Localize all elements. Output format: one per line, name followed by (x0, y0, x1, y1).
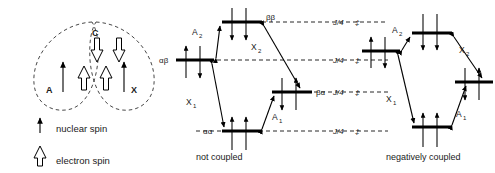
energy-label-ab: J/4 ‡ (332, 56, 360, 65)
svg-text:J/4: J/4 (332, 127, 344, 136)
svg-text:A: A (272, 112, 278, 122)
svg-text:2: 2 (199, 33, 203, 39)
legend: nuclear spin electron spin (34, 118, 110, 166)
transition-label-A2-neg: A 2 (392, 25, 403, 37)
svg-text:1: 1 (463, 115, 467, 121)
transition-label-A1-neg: A 1 (456, 109, 467, 121)
state-label-ab: αβ (159, 56, 169, 65)
diagram-canvas: A C X nuclear spin electron spin (0, 0, 495, 173)
transition-label-X2-neg: X 2 (459, 45, 470, 57)
state-label-ba: βα (316, 88, 326, 97)
svg-text:X: X (386, 94, 392, 104)
transition-arrow-A2 (216, 26, 220, 58)
svg-text:A: A (392, 25, 398, 35)
molecular-spin-schematic: A C X (34, 22, 154, 110)
electron-spin-A-arrow (78, 66, 90, 90)
svg-text:‡: ‡ (355, 18, 360, 27)
energy-label-aa: J/4 ‡ (332, 127, 360, 136)
svg-text:2: 2 (399, 31, 403, 37)
legend-label-nuclear: nuclear spin (56, 123, 107, 134)
svg-text:1: 1 (393, 100, 397, 106)
svg-text:‡: ‡ (355, 56, 360, 65)
panel-negatively-coupled: A 2 X 2 X 1 A 1 negatively coupled (362, 14, 493, 162)
energy-label-ba: J/4 ‡ (332, 88, 360, 97)
transition-label-X2: X 2 (251, 42, 262, 54)
caption-not-coupled: not coupled (196, 152, 243, 162)
svg-text:X: X (251, 42, 257, 52)
svg-text:1: 1 (279, 118, 283, 124)
atom-label-C: C (92, 28, 99, 38)
state-label-aa: αα (203, 127, 213, 136)
svg-text:2: 2 (466, 51, 470, 57)
energy-label-bb: J/4 ‡ (332, 18, 360, 27)
svg-text:‡: ‡ (355, 127, 360, 136)
caption-negatively-coupled: negatively coupled (386, 152, 461, 162)
svg-text:A: A (192, 27, 198, 37)
electron-spin-C-right-arrow (113, 38, 125, 62)
svg-text:‡: ‡ (355, 88, 360, 97)
electron-spin-icon (34, 146, 46, 166)
state-label-bb: ββ (266, 13, 276, 22)
transition-arrow-X1-neg (398, 55, 414, 123)
svg-text:J/4: J/4 (332, 88, 344, 97)
transition-arrow-A2-neg (402, 37, 410, 50)
transition-label-X1-neg: X 1 (386, 94, 397, 106)
transition-label-A2: A 2 (192, 27, 203, 39)
transition-arrow-X2-neg (454, 37, 482, 78)
atom-label-X: X (131, 85, 137, 95)
electron-spin-C-left-arrow (91, 38, 103, 62)
transition-arrow-X1 (212, 64, 224, 127)
svg-text:A: A (456, 109, 462, 119)
svg-text:J/4: J/4 (332, 56, 344, 65)
panel-not-coupled: ββ αβ βα αα A 2 X 2 X 1 A 1 not coupled (159, 8, 326, 162)
orbital-lobe-right (90, 22, 154, 110)
transition-label-A1: A 1 (272, 112, 283, 124)
svg-text:X: X (459, 45, 465, 55)
atom-label-A: A (46, 85, 53, 95)
reference-lines (196, 22, 388, 131)
legend-label-electron: electron spin (56, 155, 110, 166)
orbital-lobe-left (34, 22, 98, 110)
svg-text:J/4: J/4 (332, 18, 344, 27)
svg-text:1: 1 (193, 103, 197, 109)
electron-spin-X-arrow (100, 66, 112, 90)
transition-label-X1: X 1 (186, 97, 197, 109)
figure-root: A C X nuclear spin electron spin (0, 0, 495, 173)
svg-text:2: 2 (258, 48, 262, 54)
coupling-energy-labels: J/4 ‡ J/4 ‡ J/4 ‡ J/4 ‡ (332, 18, 360, 136)
svg-text:X: X (186, 97, 192, 107)
